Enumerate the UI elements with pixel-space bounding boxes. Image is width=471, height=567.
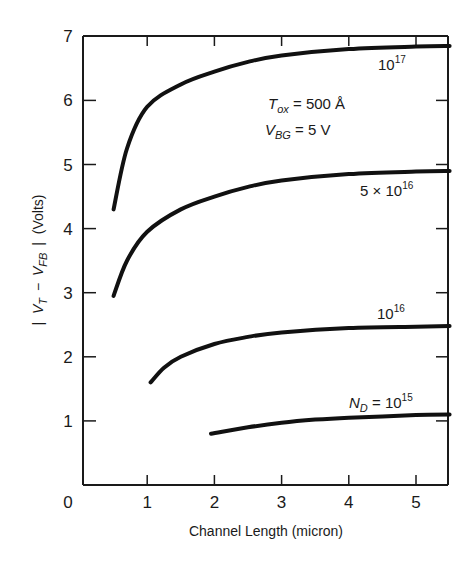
series-label-5e16: 5 × 1016 [360, 180, 414, 199]
y-tick-label: 7 [63, 27, 72, 46]
y-tick-label: 3 [63, 284, 72, 303]
y-axis-title: | VT − VFB | (Volts) [30, 194, 50, 325]
y-tick-label: 1 [63, 412, 72, 431]
x-tick-label: 2 [210, 493, 219, 512]
x-tick-label: 3 [277, 493, 286, 512]
series-label-1e16: 1016 [377, 303, 405, 322]
series-curve-2 [151, 326, 450, 382]
x-axis-title: Channel Length (micron) [189, 523, 343, 539]
tick-labels: 0123451234567 [63, 27, 420, 512]
y-tick-label: 4 [63, 220, 72, 239]
series-label-1e15: ND = 1015 [349, 392, 413, 414]
annotation-tox: Tox = 500 Å [268, 95, 345, 115]
series-curve-3 [211, 415, 450, 434]
y-tick-label: 2 [63, 348, 72, 367]
y-tick-label: 5 [63, 156, 72, 175]
y-tick-label: 6 [63, 91, 72, 110]
x-tick-label: 0 [63, 493, 72, 512]
annotation-vbg: VBG = 5 V [265, 121, 331, 141]
x-tick-label: 1 [142, 493, 151, 512]
chart: 0123451234567 Channel Length (micron) | … [0, 0, 471, 567]
series-label-1e17: 1017 [378, 54, 406, 73]
x-tick-label: 4 [344, 493, 353, 512]
x-tick-label: 5 [411, 493, 420, 512]
